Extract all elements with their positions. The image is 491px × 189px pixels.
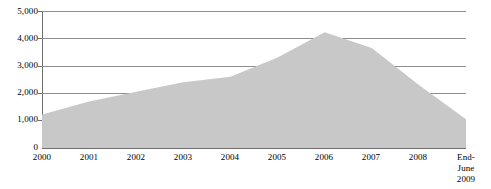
x-tick-label-2006: 2006 bbox=[315, 152, 333, 163]
y-tick-label-1000: 1,000 bbox=[2, 115, 38, 124]
y-tick-label-3000: 3,000 bbox=[2, 61, 38, 70]
x-tick-label-2005: 2005 bbox=[268, 152, 286, 163]
x-tick-label-2003: 2003 bbox=[174, 152, 192, 163]
x-tick-label-2001: 2001 bbox=[80, 152, 98, 163]
x-tick-label-2007: 2007 bbox=[362, 152, 380, 163]
x-tick-label-2002: 2002 bbox=[127, 152, 145, 163]
x-axis-labels: 2000 2001 2002 2003 2004 2005 2006 2007 … bbox=[0, 152, 491, 189]
plot-area bbox=[42, 11, 466, 148]
area-series-1 bbox=[42, 11, 466, 148]
x-tick-label-end-june-2009: End-June 2009 bbox=[454, 152, 479, 185]
y-tick-label-0: 0 bbox=[2, 143, 38, 152]
y-tick-label-5000: 5,000 bbox=[2, 7, 38, 16]
area-chart: 5,000 4,000 3,000 2,000 1,000 0 2000 200… bbox=[0, 0, 491, 189]
y-tick-label-2000: 2,000 bbox=[2, 88, 38, 97]
y-tick-label-4000: 4,000 bbox=[2, 34, 38, 43]
x-tick-label-2008: 2008 bbox=[409, 152, 427, 163]
x-tick-label-2000: 2000 bbox=[33, 152, 51, 163]
x-tick-label-2004: 2004 bbox=[221, 152, 239, 163]
x-axis-line bbox=[42, 148, 466, 149]
